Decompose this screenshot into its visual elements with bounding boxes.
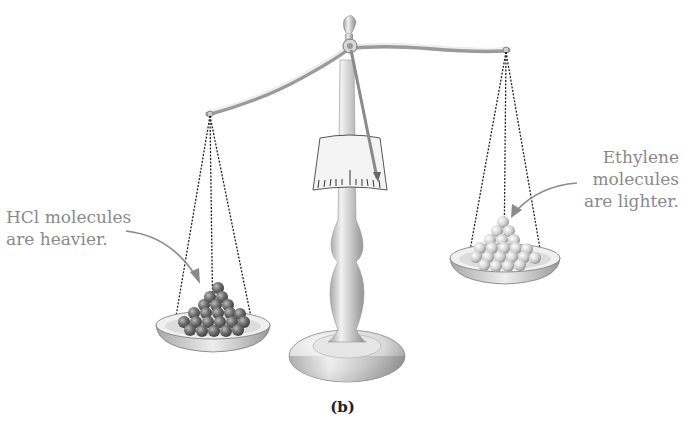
hcl-annotation: HCl molecules are heavier. <box>6 206 131 250</box>
ethylene-annotation: Ethylene molecules are lighter. <box>584 146 679 212</box>
ethylene-annotation-line2: molecules <box>584 168 679 190</box>
right-annotation-arrow <box>511 183 577 218</box>
ethylene-annotation-line3: are lighter. <box>584 190 679 212</box>
left-annotation-arrow <box>126 231 200 284</box>
hcl-annotation-line1: HCl molecules <box>6 206 131 228</box>
hcl-annotation-line2: are heavier. <box>6 228 131 250</box>
hcl-molecule-pile <box>178 282 250 337</box>
figure-caption: (b) <box>0 398 685 416</box>
ethylene-annotation-line1: Ethylene <box>584 146 679 168</box>
